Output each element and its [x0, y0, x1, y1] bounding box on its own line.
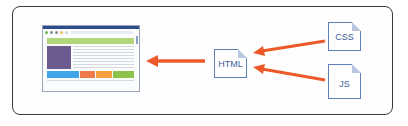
- arrows-layer: [0, 0, 408, 126]
- arrow-html-to-browser: [146, 55, 205, 67]
- arrow-css-to-html: [253, 41, 325, 56]
- arrow-js-to-html: [253, 64, 325, 80]
